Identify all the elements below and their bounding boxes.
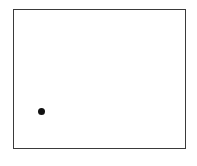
- point-marker: [38, 108, 45, 115]
- diagram-frame: [13, 9, 186, 149]
